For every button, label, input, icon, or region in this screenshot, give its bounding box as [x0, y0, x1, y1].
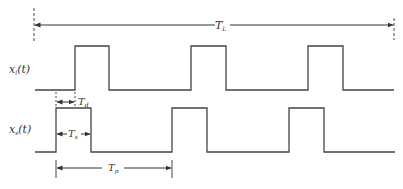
ts-label: Ts: [68, 128, 78, 140]
bottom-signal-label: xs(t): [9, 123, 31, 136]
bottom-waveform: [35, 108, 395, 152]
top-waveform: [35, 46, 394, 90]
top-signal-label: xl(t): [9, 63, 30, 76]
tp-label: Tp: [108, 162, 119, 175]
tl-label: TL: [215, 19, 226, 32]
timing-diagram: TL xl(t) Td xs(t) Ts Tp: [0, 0, 403, 189]
td-label: Td: [78, 96, 89, 108]
